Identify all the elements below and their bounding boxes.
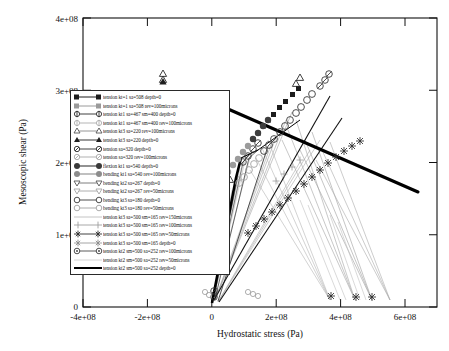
legend-label: tension kt2 sm=500 sa=252 rev=100microns	[103, 247, 192, 256]
x-tick-5: 6e+08	[394, 312, 417, 322]
legend-symbol-filled-circle-grey	[73, 170, 103, 178]
legend-symbol-filled-square	[73, 93, 103, 101]
legend-symbol-circle-dot	[73, 247, 103, 255]
legend-symbol-circle-cross-grey	[73, 119, 103, 127]
legend-item: tension kt3 sa=500 sm=165 rev=50microns	[73, 230, 227, 239]
legend-item: tension kt3 sa=500 sm=165 rev=100microns	[73, 221, 227, 230]
legend-symbol-circle-slash-grey	[73, 153, 103, 161]
legend-symbol-star-dark	[73, 230, 103, 238]
x-tick-0: -4e+08	[70, 312, 96, 322]
y-tick-0: 0	[74, 302, 79, 312]
legend-symbol-triangle-down-open	[73, 179, 103, 187]
legend-item: tension kt3 sa=220 depth=0	[73, 136, 227, 145]
legend-label: tension kt=1 sa=508 depth=0	[103, 93, 161, 102]
legend-symbol-line-only-light	[73, 256, 103, 264]
x-tick-labels: -4e+08 -2e+08 0 2e+08 4e+08 6e+08	[70, 312, 417, 322]
legend-symbol-circle-cross-dark	[73, 110, 103, 118]
legend-symbol-triangle-down-grey	[73, 187, 103, 195]
legend-item: bending kt3 sa=180 rev=50microns	[73, 204, 227, 213]
legend-item: bending kt1 sa=540 rev=100microns	[73, 170, 227, 179]
legend-item: tension kt2 sm=500 sa=252 depth=0	[73, 264, 227, 273]
chart-legend: tension kt=1 sa=508 depth=0 tension kt=1…	[70, 90, 230, 275]
y-axis-title: Mesoscopic shear (Pa)	[18, 119, 29, 205]
legend-symbol-plus-grey	[73, 221, 103, 229]
legend-symbol-triangle-open	[73, 127, 103, 135]
legend-label: bending kt3 sa=180 rev=50microns	[103, 204, 174, 213]
legend-item: bending kt2 sa=267 rev=50microns	[73, 187, 227, 196]
x-axis-title: Hydrostatic stress (Pa)	[217, 329, 303, 340]
legend-label: bending kt1 sa=540 rev=100microns	[103, 170, 176, 179]
legend-label: tension sa=320 rev=100microns	[103, 153, 167, 162]
legend-item: tension sa=320 rev=100microns	[73, 153, 227, 162]
x-tick-2: 0	[210, 312, 215, 322]
x-tick-4: 4e+08	[329, 312, 352, 322]
legend-symbol-line-only-grey	[73, 213, 103, 221]
legend-symbol-open-circle	[73, 196, 103, 204]
legend-symbol-circle-slash-dark	[73, 145, 103, 153]
y-tick-4: 4e+08	[55, 14, 78, 24]
legend-label: tension kt3 sa=220 depth=0	[103, 136, 158, 145]
plot-area: 0 1e+08 2e+08 3e+08 4e+08 -4e+08 -2e+08 …	[0, 0, 449, 351]
legend-symbol-star-grey	[73, 239, 103, 247]
legend-symbol-open-circle-grey	[73, 204, 103, 212]
x-tick-1: -2e+08	[135, 312, 161, 322]
legend-label: tension kt1 sa=467 sm=400 depth=0	[103, 110, 176, 119]
legend-label: tension kt3 sa=500 sm=165 rev=50microns	[103, 230, 189, 239]
legend-item: tension kt2 sm=500 sa=252 rev=100microns	[73, 247, 227, 256]
legend-item: tension kt3 sa=220 rev=100microns	[73, 127, 227, 136]
x-tick-3: 2e+08	[265, 312, 288, 322]
legend-symbol-triangle-filled	[73, 136, 103, 144]
legend-symbol-thick-line	[73, 264, 103, 272]
legend-symbol-filled-circle	[73, 162, 103, 170]
legend-item: tension kt=1 sa=508 depth=0	[73, 93, 227, 102]
legend-label: bending kt2 sa=267 rev=50microns	[103, 187, 174, 196]
legend-item: tension kt1 sa=467 sm=400 depth=0	[73, 110, 227, 119]
chart-figure: 0 1e+08 2e+08 3e+08 4e+08 -4e+08 -2e+08 …	[0, 0, 449, 351]
legend-symbol-grey-square	[73, 102, 103, 110]
legend-label: tension kt2 sm=500 sa=252 depth=0	[103, 264, 176, 273]
